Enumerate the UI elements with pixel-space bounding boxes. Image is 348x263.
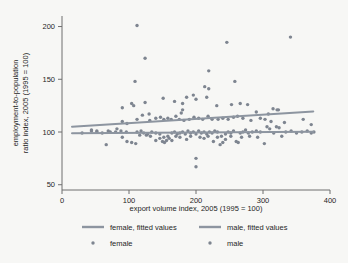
data-point	[205, 96, 208, 99]
data-point	[256, 136, 259, 139]
data-point	[180, 111, 183, 114]
data-point	[149, 135, 152, 138]
data-point	[170, 139, 173, 142]
data-point	[225, 41, 228, 44]
data-point	[240, 136, 243, 139]
data-point	[125, 140, 128, 143]
data-point	[207, 87, 210, 90]
data-point	[229, 135, 232, 138]
y-axis-title-line1: employment-to-population	[11, 60, 20, 147]
data-point	[143, 56, 146, 59]
data-point	[239, 102, 242, 105]
data-point	[145, 133, 148, 136]
data-point	[105, 143, 108, 146]
data-point	[166, 135, 169, 138]
data-point	[202, 137, 205, 140]
data-point	[277, 126, 280, 129]
data-point	[224, 138, 227, 141]
data-point	[192, 93, 195, 96]
y-tick-label: 200	[42, 22, 55, 31]
x-tick-label: 400	[324, 196, 337, 205]
data-point	[233, 80, 236, 83]
y-axis-title-line2: ratio index, 2005 (1995 = 100)	[21, 52, 30, 153]
data-point	[277, 108, 280, 111]
data-point	[215, 104, 218, 107]
data-point	[244, 128, 247, 131]
data-point	[248, 135, 251, 138]
data-point	[198, 136, 201, 139]
legend-label-female-fitted: female, fitted values	[110, 223, 177, 232]
data-point	[133, 80, 136, 83]
data-point	[138, 133, 141, 136]
data-point	[221, 141, 224, 144]
data-point	[203, 85, 206, 88]
data-point	[216, 136, 219, 139]
scatter-plot-figure: 50100150200 employment-to-population rat…	[0, 0, 348, 263]
data-point	[132, 104, 135, 107]
data-point	[178, 136, 181, 139]
data-point	[90, 128, 93, 131]
data-point	[154, 139, 157, 142]
data-point	[143, 101, 146, 104]
data-point	[212, 140, 215, 143]
data-point	[194, 98, 197, 101]
data-point	[255, 110, 258, 113]
data-point	[194, 165, 197, 168]
data-point	[165, 139, 168, 142]
legend-marker-female	[91, 241, 94, 244]
data-point	[263, 118, 266, 121]
data-point	[310, 123, 313, 126]
data-point	[134, 142, 137, 145]
data-point	[185, 138, 188, 141]
data-point	[158, 137, 161, 140]
data-point	[185, 96, 188, 99]
data-point	[302, 118, 305, 121]
data-point	[173, 100, 176, 103]
data-point	[166, 117, 169, 120]
data-point	[189, 135, 192, 138]
data-point	[141, 113, 144, 116]
data-point	[174, 135, 177, 138]
data-point	[181, 102, 184, 105]
data-point	[230, 103, 233, 106]
data-point	[283, 121, 286, 124]
x-tick-label: 0	[60, 196, 64, 205]
data-point	[147, 112, 150, 115]
data-point	[226, 118, 229, 121]
data-point	[174, 114, 177, 117]
data-point	[220, 135, 223, 138]
data-point	[268, 127, 271, 130]
data-point	[249, 119, 252, 122]
chart-canvas: 50100150200 employment-to-population rat…	[0, 0, 348, 263]
legend-label-male-fitted: male, fitted values	[227, 223, 288, 232]
y-tick-label: 50	[47, 180, 55, 189]
data-point	[159, 116, 162, 119]
data-point	[218, 143, 221, 146]
data-point	[194, 157, 197, 160]
data-point	[263, 142, 266, 145]
data-point	[162, 136, 165, 139]
y-tick-label: 150	[42, 75, 55, 84]
data-point	[289, 35, 292, 38]
data-point	[241, 117, 244, 120]
data-point	[207, 69, 210, 72]
data-point	[121, 136, 124, 139]
fitted-line-male	[72, 132, 313, 133]
data-point	[161, 97, 164, 100]
data-point	[246, 103, 249, 106]
data-point	[269, 120, 272, 123]
data-point	[135, 24, 138, 27]
legend-label-female: female	[110, 239, 133, 248]
x-axis-title: export volume index, 2005 (1995 = 100)	[130, 204, 263, 213]
data-point	[280, 135, 283, 138]
data-point	[130, 141, 133, 144]
data-point	[115, 127, 118, 130]
data-point	[121, 106, 124, 109]
data-point	[259, 117, 262, 120]
y-tick-label: 100	[42, 128, 55, 137]
data-point	[154, 117, 157, 120]
legend-label-male: male	[227, 239, 243, 248]
data-point	[206, 135, 209, 138]
legend-marker-male	[208, 241, 211, 244]
data-point	[181, 108, 184, 111]
